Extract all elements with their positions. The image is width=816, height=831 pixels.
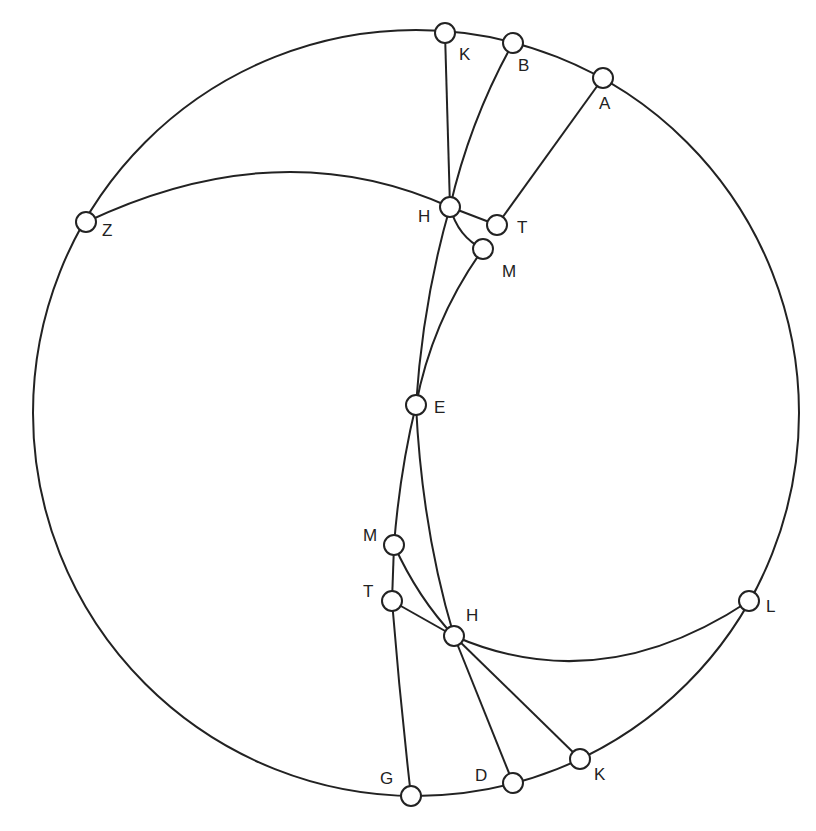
node-circle-icon — [570, 749, 590, 769]
node-label: A — [599, 94, 611, 113]
edge-H_bot-K_bot — [454, 636, 580, 759]
node-label: K — [594, 765, 606, 784]
node-Z: Z — [76, 212, 112, 240]
node-K_bot: K — [570, 749, 606, 784]
node-M_bot: M — [363, 526, 404, 555]
node-A: A — [593, 68, 613, 113]
edge-K_top-H_top — [445, 33, 450, 207]
node-label: M — [502, 262, 516, 281]
node-circle-icon — [473, 239, 493, 259]
node-label: Z — [102, 221, 112, 240]
node-L: L — [739, 591, 775, 616]
node-E: E — [406, 395, 445, 417]
edge-M_top-E — [416, 249, 483, 405]
node-label: B — [518, 56, 529, 75]
edge-E-H_bot — [416, 405, 454, 636]
node-circle-icon — [401, 786, 421, 806]
edge-B-H_top — [450, 43, 513, 207]
node-circle-icon — [487, 215, 507, 235]
node-circle-icon — [382, 591, 402, 611]
edge-E-M_bot — [394, 405, 416, 545]
node-label: K — [459, 45, 471, 64]
node-circle-icon — [503, 773, 523, 793]
node-label: E — [434, 398, 445, 417]
node-label: H — [466, 606, 478, 625]
node-circle-icon — [593, 68, 613, 88]
node-label: H — [418, 207, 430, 226]
nodes-group: KBAZHTMEMTHLKDG — [76, 23, 775, 806]
node-T_top: T — [487, 215, 527, 237]
edge-M_bot-H_bot — [394, 545, 454, 636]
node-label: D — [475, 766, 487, 785]
node-circle-icon — [384, 535, 404, 555]
node-label: T — [363, 582, 373, 601]
node-circle-icon — [440, 197, 460, 217]
node-label: L — [766, 597, 775, 616]
node-circle-icon — [444, 626, 464, 646]
node-H_bot: H — [444, 606, 478, 646]
node-K_top: K — [435, 23, 471, 64]
node-D: D — [475, 766, 523, 793]
node-circle-icon — [435, 23, 455, 43]
edge-A-T_top — [497, 78, 603, 225]
edge-Z-H_top — [86, 172, 450, 222]
edge-H_bot-L — [454, 601, 749, 661]
edge-T_bot-G — [392, 601, 411, 796]
node-T_bot: T — [363, 582, 402, 611]
node-circle-icon — [739, 591, 759, 611]
node-M_top: M — [473, 239, 516, 281]
node-G: G — [380, 769, 421, 806]
edge-H_bot-D — [454, 636, 513, 783]
node-label: T — [517, 218, 527, 237]
edge-H_top-E — [416, 207, 450, 405]
circle-diagram: KBAZHTMEMTHLKDG — [0, 0, 816, 831]
node-label: G — [380, 769, 393, 788]
node-label: M — [363, 526, 377, 545]
node-circle-icon — [406, 395, 426, 415]
node-circle-icon — [76, 212, 96, 232]
node-circle-icon — [503, 33, 523, 53]
